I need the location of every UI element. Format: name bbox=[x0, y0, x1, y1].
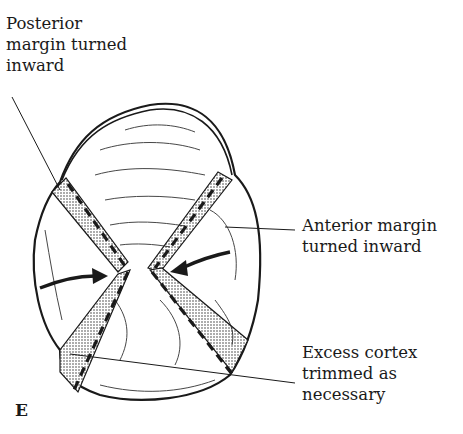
label-line: Posterior bbox=[6, 13, 127, 34]
label-line: trimmed as bbox=[302, 363, 417, 384]
label-excess-cortex: Excess cortex trimmed as necessary bbox=[302, 342, 417, 405]
label-line: margin turned bbox=[6, 34, 127, 55]
label-line: turned inward bbox=[302, 236, 437, 257]
leader-posterior bbox=[12, 97, 60, 190]
panel-letter: E bbox=[15, 400, 28, 420]
label-posterior: Posterior margin turned inward bbox=[6, 13, 127, 76]
label-line: Excess cortex bbox=[302, 342, 417, 363]
label-line: inward bbox=[6, 55, 127, 76]
label-line: Anterior margin bbox=[302, 215, 437, 236]
label-anterior: Anterior margin turned inward bbox=[302, 215, 437, 257]
label-line: necessary bbox=[302, 384, 417, 405]
